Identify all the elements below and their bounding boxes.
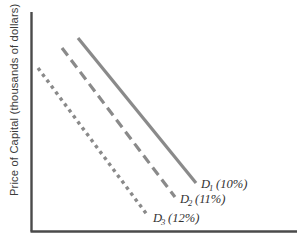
chart-canvas: Price of Capital (thousands of dollars) …	[0, 0, 299, 242]
curve-label-d1-rate: (10%)	[216, 177, 247, 191]
curve-label-d2-rate: (11%)	[195, 192, 226, 206]
curve-label-d1: D 1 (10%)	[200, 177, 247, 193]
chart-background	[0, 0, 299, 242]
curve-label-d3-rate: (12%)	[168, 211, 199, 225]
curve-label-d2: D 2 (11%)	[179, 192, 226, 208]
y-axis-title: Price of Capital (thousands of dollars)	[8, 3, 20, 196]
curve-label-d2-subscript: 2	[188, 198, 193, 208]
curve-label-d3: D 3 (12%)	[152, 211, 199, 227]
curve-label-d3-subscript: 3	[160, 217, 165, 227]
demand-curve-chart: Price of Capital (thousands of dollars) …	[0, 0, 299, 242]
